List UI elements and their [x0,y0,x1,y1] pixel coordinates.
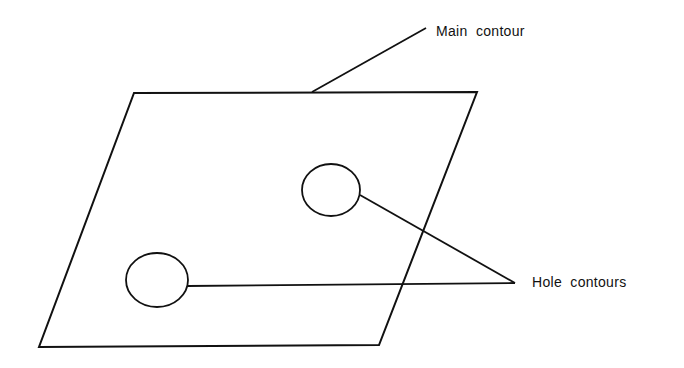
main-contour-leader-line [312,28,426,92]
upper-hole-leader-line [360,195,515,283]
lower-hole-contour [126,253,188,307]
contour-diagram [0,0,684,368]
hole-contours-label: Hole contours [532,274,626,290]
lower-hole-leader-line [188,283,515,286]
main-contour-parallelogram [39,92,477,347]
main-contour-label: Main contour [436,23,525,39]
upper-hole-contour [302,164,360,216]
